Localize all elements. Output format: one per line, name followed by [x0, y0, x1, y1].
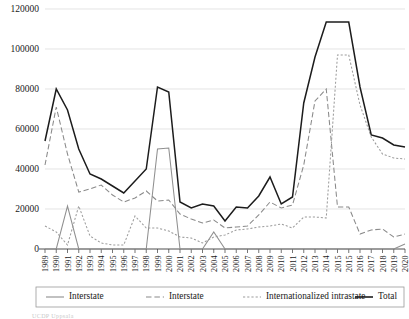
x-axis-tick-label: 2002 [187, 256, 196, 272]
x-axis-tick-label: 2004 [210, 256, 219, 272]
series-line-3 [45, 22, 405, 221]
x-axis-tick-label: 2005 [221, 256, 230, 272]
y-axis-tick-label: 120000 [11, 4, 40, 14]
x-axis-tick-label: 1990 [52, 256, 61, 272]
legend-label-1[interactable]: Interstate [169, 291, 204, 301]
legend-label-3[interactable]: Total [378, 291, 397, 301]
x-axis-tick-label: 2015 [334, 256, 343, 272]
y-axis-tick-label: 20000 [15, 204, 39, 214]
x-axis-tick-label: 2001 [176, 256, 185, 272]
y-axis-tick-label: 60000 [15, 124, 39, 134]
x-axis-tick-label: 1989 [41, 256, 50, 272]
x-axis-tick-label: 2008 [255, 256, 264, 272]
x-axis-tick-label: 2019 [390, 256, 399, 272]
x-axis-tick-label: 2016 [356, 256, 365, 272]
x-axis-tick-label: 2013 [311, 256, 320, 272]
x-axis-tick-label: 2003 [199, 256, 208, 272]
y-axis-tick-label: 80000 [15, 84, 39, 94]
x-axis-tick-label: 2012 [300, 256, 309, 272]
chart-container: 0200004000060000800001000001200001989199… [0, 0, 409, 319]
x-axis-tick-label: 1995 [109, 256, 118, 272]
y-axis-tick-label: 100000 [11, 44, 40, 54]
x-axis-tick-label: 1992 [75, 256, 84, 272]
legend-label-0[interactable]: Interstate [69, 291, 104, 301]
x-axis-tick-label: 1997 [131, 256, 140, 272]
x-axis-tick-label: 1991 [64, 256, 73, 272]
x-axis-tick-label: 2000 [165, 256, 174, 272]
x-axis-tick-label: 2010 [277, 256, 286, 272]
x-axis-tick-label: 2018 [379, 256, 388, 272]
x-axis-tick-label: 1993 [86, 256, 95, 272]
x-axis-tick-label: 2015 [345, 256, 354, 272]
series-line-2 [45, 55, 405, 245]
x-axis-tick-label: 2020 [401, 256, 409, 272]
x-axis-tick-label: 1998 [142, 256, 151, 272]
x-axis-tick-label: 1994 [97, 256, 106, 272]
x-axis-tick-label: 2011 [289, 256, 298, 272]
x-axis-tick-label: 2009 [266, 256, 275, 272]
x-axis-tick-label: 1999 [154, 256, 163, 272]
y-axis-tick-label: 0 [34, 244, 39, 254]
line-chart: 0200004000060000800001000001200001989199… [0, 0, 409, 319]
x-axis-tick-label: 2017 [367, 256, 376, 272]
y-axis-tick-label: 40000 [15, 164, 39, 174]
x-axis-tick-label: 1996 [120, 256, 129, 272]
series-line-1 [45, 89, 405, 237]
series-line-0 [45, 148, 405, 249]
chart-footnote: UCDP Uppsala [32, 313, 74, 319]
x-axis-tick-label: 2014 [322, 256, 331, 272]
x-axis-tick-label: 2006 [232, 256, 241, 272]
x-axis-tick-label: 2007 [244, 256, 253, 272]
legend-label-2[interactable]: Internationalized intrastate [266, 291, 365, 301]
